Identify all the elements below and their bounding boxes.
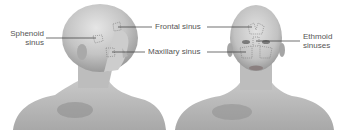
ear-side [77,44,87,60]
sinus-diagram [0,0,341,132]
label-sphenoid-line1: Sphenoid [6,29,44,38]
label-ethmoid-line1: Ethmoid [303,32,332,41]
label-maxillary: Maxillary sinus [148,47,200,56]
label-ethmoid: Ethmoid sinuses [303,32,332,50]
label-sphenoid-line2: sinus [6,38,44,47]
label-frontal: Frontal sinus [155,22,201,31]
side-view-head [13,4,166,130]
label-ethmoid-line2: sinuses [303,41,332,50]
head-front [230,5,282,71]
label-sphenoid: Sphenoid sinus [6,29,44,47]
